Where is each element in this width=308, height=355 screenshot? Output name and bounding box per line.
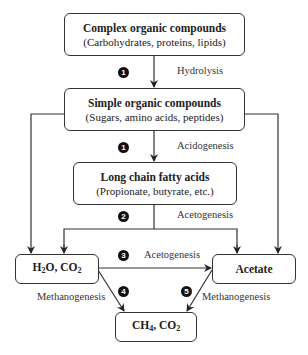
node-subtitle: (Carbohydrates, proteins, lipids)	[83, 35, 225, 49]
step-number-hydrolysis: 1	[118, 67, 129, 78]
node-acetate: Acetate	[212, 254, 296, 284]
step-number-acetogenesis-1: 2	[118, 211, 129, 222]
step-number-acidogenesis: 1	[118, 142, 129, 153]
node-h2o-co2: H2O, CO2	[15, 254, 99, 284]
node-title: Long chain fatty acids	[101, 170, 210, 184]
node-simple-organic-compounds: Simple organic compounds (Sugars, amino …	[64, 88, 245, 131]
step-number-methanogenesis-2: 5	[181, 286, 192, 297]
node-title: Complex organic compounds	[83, 21, 226, 35]
step-label-acetogenesis-1: Acetogenesis	[177, 209, 233, 220]
node-ch4-co2: CH4, CO2	[115, 312, 197, 342]
node-subtitle: (Propionate, butyrate, etc.)	[96, 184, 214, 198]
node-title: Acetate	[235, 262, 272, 276]
anaerobic-digestion-diagram: Complex organic compounds (Carbohydrates…	[0, 0, 308, 355]
step-label-methanogenesis-2: Methanogenesis	[202, 291, 270, 302]
node-title: CH4, CO2	[132, 318, 180, 336]
node-complex-organic-compounds: Complex organic compounds (Carbohydrates…	[64, 13, 245, 56]
node-title: Simple organic compounds	[88, 96, 221, 110]
step-label-acidogenesis: Acidogenesis	[177, 140, 234, 151]
step-number-methanogenesis-1: 4	[118, 286, 129, 297]
node-title: H2O, CO2	[33, 260, 82, 278]
step-label-methanogenesis-1: Methanogenesis	[37, 291, 105, 302]
step-label-acetogenesis-2: Acetogenesis	[144, 249, 200, 260]
node-subtitle: (Sugars, amino acids, peptides)	[86, 110, 224, 124]
node-long-chain-fatty-acids: Long chain fatty acids (Propionate, buty…	[73, 162, 237, 205]
step-number-acetogenesis-2: 3	[118, 250, 129, 261]
step-label-hydrolysis: Hydrolysis	[177, 65, 223, 76]
